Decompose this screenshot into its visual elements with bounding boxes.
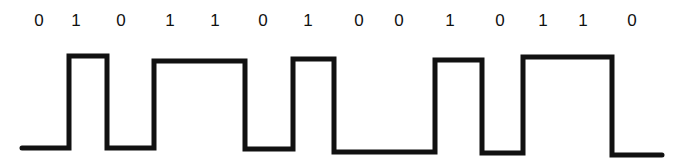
bit-label: 1	[533, 10, 553, 32]
bit-label: 1	[440, 10, 460, 32]
bit-label: 1	[573, 10, 593, 32]
bit-label: 0	[622, 10, 642, 32]
bit-label: 0	[389, 10, 409, 32]
bit-label: 1	[160, 10, 180, 32]
bit-label: 1	[66, 10, 86, 32]
bit-label: 1	[298, 10, 318, 32]
bit-label: 1	[205, 10, 225, 32]
bit-label: 0	[349, 10, 369, 32]
signal-diagram: 01011010010110	[0, 0, 685, 166]
bit-label: 0	[111, 10, 131, 32]
bit-label: 0	[29, 10, 49, 32]
square-waveform	[22, 56, 662, 155]
bit-label: 0	[253, 10, 273, 32]
bit-label: 0	[490, 10, 510, 32]
